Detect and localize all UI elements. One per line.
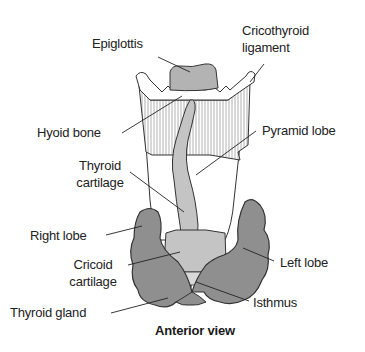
label-hyoid-bone: Hyoid bone: [37, 125, 101, 140]
figure-caption: Anterior view: [140, 323, 250, 338]
label-thyroid-cartilage-line2: cartilage: [72, 175, 128, 190]
label-thyroid-cartilage-line1: Thyroid: [72, 158, 128, 173]
label-right-lobe: Right lobe: [30, 228, 87, 243]
larynx-thyroid-diagram: [0, 0, 365, 352]
label-epiglottis: Epiglottis: [92, 36, 143, 51]
label-cricothyroid-line2: ligament: [242, 40, 290, 55]
label-cricothyroid-line1: Cricothyroid: [242, 23, 309, 38]
label-left-lobe: Left lobe: [280, 255, 328, 270]
label-isthmus: Isthmus: [253, 295, 297, 310]
label-pyramid-lobe: Pyramid lobe: [262, 123, 335, 138]
label-thyroid-gland: Thyroid gland: [10, 305, 86, 320]
epiglottis: [170, 64, 218, 91]
label-cricoid-cartilage-line1: Cricoid: [62, 257, 124, 272]
label-cricoid-cartilage-line2: cartilage: [62, 274, 124, 289]
